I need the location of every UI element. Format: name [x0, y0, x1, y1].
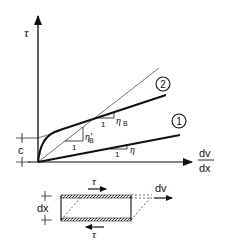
- svg-text:B: B: [123, 120, 128, 127]
- shear-element: dx τ τ dv: [37, 175, 172, 240]
- x-label-denominator: dx: [199, 162, 211, 174]
- svg-text:1: 1: [101, 120, 106, 129]
- x-axis-label: dv dx: [198, 147, 214, 174]
- x-label-numerator: dv: [199, 147, 211, 159]
- curve-2-label: 2: [156, 77, 170, 91]
- secant-line: [38, 68, 159, 162]
- bottom-shear-label: τ: [92, 228, 97, 240]
- yield-stress-label: c: [18, 144, 24, 156]
- displacement-label: dv: [155, 182, 167, 194]
- svg-text:1: 1: [176, 116, 182, 127]
- svg-text:η: η: [130, 144, 135, 155]
- svg-text:1: 1: [115, 150, 120, 159]
- top-shear-label: τ: [92, 175, 97, 187]
- curve-1: [38, 135, 180, 162]
- slope-triangle-eta-b: 1 η B: [96, 112, 128, 129]
- slope-triangle-eta-b-prime: 1 η' B: [65, 127, 94, 152]
- flow-curve-diagram: τ dv dx c 2 1 1 η B 1 η' B: [0, 0, 227, 249]
- element-height-label: dx: [37, 202, 49, 214]
- svg-text:1: 1: [72, 143, 77, 152]
- svg-text:2: 2: [160, 79, 166, 90]
- svg-text:η: η: [116, 115, 121, 126]
- curve-1-label: 1: [172, 114, 186, 128]
- svg-text:B: B: [89, 137, 94, 144]
- y-axis-label: τ: [24, 25, 30, 40]
